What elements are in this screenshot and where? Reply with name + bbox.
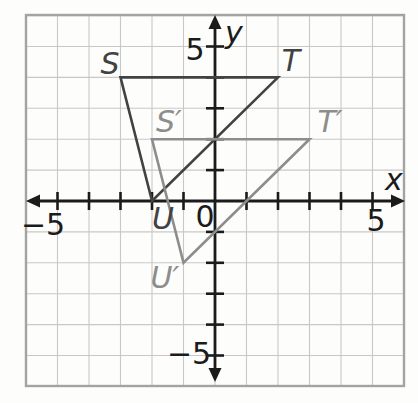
- vertex-label-U-prime: U′: [151, 260, 180, 295]
- vertex-label-S: S: [100, 46, 119, 81]
- vertex-label-S-prime: S′: [156, 104, 182, 139]
- vertex-label-U: U: [152, 201, 174, 236]
- vertex-label-T-prime: T′: [317, 104, 342, 139]
- origin-label: 0: [195, 199, 214, 234]
- x-tick-label-pos5: 5: [366, 203, 385, 238]
- coordinate-plane: x y 0 −5 5 5 −5 S T U S′ T′ U′: [0, 0, 418, 403]
- axes: [26, 15, 405, 382]
- x-axis-label: x: [384, 162, 403, 197]
- y-tick-label-neg5: −5: [167, 336, 211, 371]
- x-tick-label-neg5: −5: [21, 207, 65, 242]
- y-tick-label-pos5: 5: [185, 32, 204, 67]
- vertex-label-T: T: [282, 43, 303, 78]
- graph-figure: x y 0 −5 5 5 −5 S T U S′ T′ U′: [0, 0, 418, 403]
- y-axis-label: y: [224, 15, 244, 50]
- y-axis-arrow-up-icon: [209, 15, 222, 29]
